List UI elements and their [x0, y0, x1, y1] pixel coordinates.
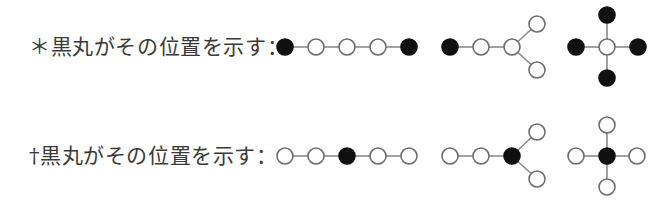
- open-atom-icon: [629, 148, 645, 164]
- open-atom-icon: [473, 39, 489, 55]
- open-atom-icon: [308, 39, 324, 55]
- filled-atom-icon: [568, 39, 584, 55]
- open-atom-icon: [473, 148, 489, 164]
- linear-chain-terminal-positions: [277, 39, 417, 55]
- filled-atom-icon: [599, 7, 615, 23]
- open-atom-icon: [442, 148, 458, 164]
- filled-atom-icon: [599, 148, 615, 164]
- open-atom-icon: [308, 148, 324, 164]
- open-atom-icon: [401, 148, 417, 164]
- cross-central-position: [568, 117, 645, 195]
- open-atom-icon: [599, 117, 615, 133]
- filled-atom-icon: [401, 39, 417, 55]
- branched-chain-terminal-positions: [442, 16, 545, 78]
- open-atom-icon: [529, 62, 545, 78]
- linear-chain-central-position: [277, 148, 417, 164]
- open-atom-icon: [504, 39, 520, 55]
- open-atom-icon: [339, 39, 355, 55]
- filled-atom-icon: [630, 39, 646, 55]
- open-atom-icon: [277, 148, 293, 164]
- open-atom-icon: [370, 39, 386, 55]
- open-atom-icon: [599, 179, 615, 195]
- open-atom-icon: [529, 124, 545, 140]
- filled-atom-icon: [339, 148, 355, 164]
- filled-atom-icon: [277, 39, 293, 55]
- filled-atom-icon: [442, 39, 458, 55]
- branched-chain-branch-point: [442, 124, 545, 187]
- molecule-structures-diagram: [0, 0, 664, 202]
- filled-atom-icon: [599, 70, 615, 86]
- open-atom-icon: [568, 148, 584, 164]
- open-atom-icon: [529, 171, 545, 187]
- open-atom-icon: [370, 148, 386, 164]
- cross-terminal-positions: [568, 7, 646, 86]
- open-atom-icon: [599, 39, 615, 55]
- filled-atom-icon: [504, 148, 520, 164]
- open-atom-icon: [529, 16, 545, 32]
